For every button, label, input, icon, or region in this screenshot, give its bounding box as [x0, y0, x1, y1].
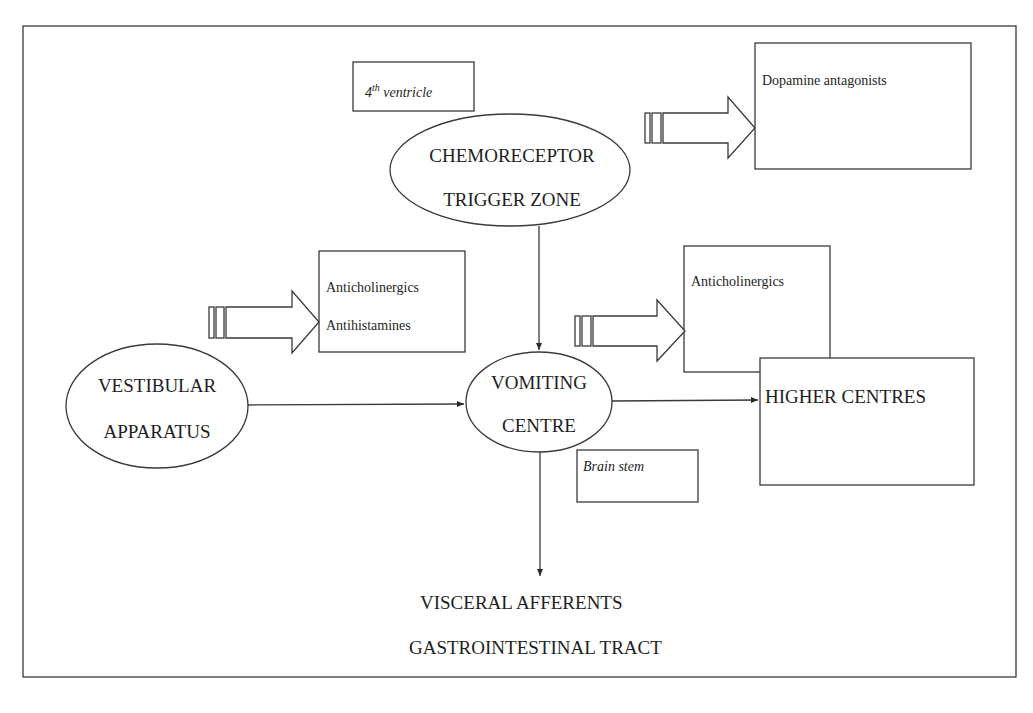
drug-anticholinergics: Anticholinergics [326, 280, 419, 295]
vestibular-drug-box: Anticholinergics Antihistamines [319, 251, 465, 352]
higher-centres-label: HIGHER CENTRES [765, 386, 926, 407]
vc-to-higher-arrow [612, 400, 758, 401]
block-arrow-icon [209, 291, 319, 353]
visceral-label-line1: VISCERAL AFFERENTS [420, 592, 623, 613]
higher-drug-box: Anticholinergics [684, 246, 830, 372]
drug-dopamine-antagonists: Dopamine antagonists [762, 73, 887, 88]
higher-centres-node: HIGHER CENTRES [760, 358, 974, 485]
vestibular-label-line2: APPARATUS [103, 421, 210, 442]
drug-antihistamines: Antihistamines [326, 318, 411, 333]
dopamine-drug-box: Dopamine antagonists [755, 43, 971, 169]
vomiting-centre-node: VOMITING CENTRE [466, 352, 612, 452]
block-arrow-icon [575, 300, 685, 361]
block-arrow-icon [645, 97, 755, 158]
vc-location-label: Brain stem [583, 459, 644, 474]
vc-label-line2: CENTRE [502, 415, 576, 436]
visceral-node: VISCERAL AFFERENTS GASTROINTESTINAL TRAC… [409, 592, 662, 658]
ctz-label-line1: CHEMORECEPTOR [429, 145, 595, 166]
vestibular-node: VESTIBULAR APPARATUS [66, 344, 248, 468]
vestibular-label-line1: VESTIBULAR [98, 375, 217, 396]
visceral-label-line2: GASTROINTESTINAL TRACT [409, 637, 662, 658]
vc-label-line1: VOMITING [491, 372, 587, 393]
ctz-label-line2: TRIGGER ZONE [443, 189, 581, 210]
drug-anticholinergics-higher: Anticholinergics [691, 274, 784, 289]
vestibular-to-vc-arrow [248, 404, 464, 405]
antiemetic-diagram: 4th ventricle CHEMORECEPTOR TRIGGER ZONE… [0, 0, 1033, 713]
vc-location-box: Brain stem [577, 450, 698, 502]
ctz-location-box: 4th ventricle [353, 62, 474, 111]
ctz-node: CHEMORECEPTOR TRIGGER ZONE [390, 114, 630, 226]
